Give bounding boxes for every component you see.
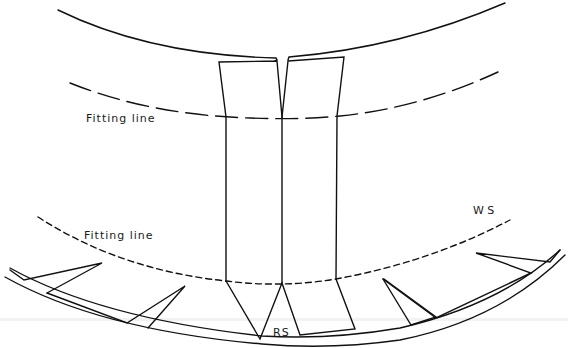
diagram-svg: [0, 0, 568, 348]
right-panel: [282, 57, 344, 279]
label-rs: RS: [273, 327, 290, 338]
upper-arc-right: [288, 3, 505, 60]
flap-right-2: [383, 250, 560, 318]
label-fitting-line-upper: Fitting line: [86, 113, 156, 124]
left-v: [226, 279, 355, 339]
flap-left-1: [10, 263, 102, 293]
diagram-canvas: Fitting line Fitting line W S RS: [0, 0, 568, 348]
flap-left-2: [47, 286, 185, 328]
label-ws: W S: [473, 205, 494, 216]
left-panel: [219, 61, 282, 281]
label-fitting-line-lower: Fitting line: [84, 230, 154, 241]
flap-right-1: [383, 279, 436, 325]
upper-arc-left: [58, 10, 277, 61]
fitting-line-lower: [38, 217, 510, 284]
